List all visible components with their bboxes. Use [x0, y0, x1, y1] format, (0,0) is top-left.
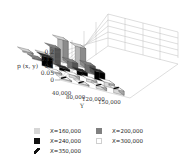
- z-axis-label: p (x, y): [17, 62, 38, 70]
- legend-label: X=240,000: [50, 138, 81, 144]
- z-tick: 0.2: [44, 48, 54, 55]
- legend-item: X=300,000: [96, 136, 143, 145]
- legend-item: X=240,000: [34, 136, 81, 145]
- legend-label: X=300,000: [112, 138, 143, 144]
- chart-3d-bar: 0 0.05 0.1 0.15 0.2 p (x, y) 40,000 80,0…: [0, 0, 189, 166]
- z-tick: 0.05: [41, 69, 55, 76]
- legend-swatch-white: [96, 138, 102, 144]
- z-axis: 0 0.05 0.1 0.15 0.2 p (x, y): [17, 48, 54, 83]
- plot-area: 0 0.05 0.1 0.15 0.2 p (x, y) 40,000 80,0…: [0, 0, 189, 125]
- z-tick: 0: [50, 76, 54, 83]
- legend-item: X=200,000: [96, 126, 143, 135]
- legend-label: X=200,000: [112, 128, 143, 134]
- legend-item: X=160,000: [34, 126, 81, 135]
- legend-item: X=350,000: [34, 146, 81, 155]
- legend-label: X=350,000: [50, 148, 81, 154]
- z-tick: 0.1: [44, 62, 54, 69]
- legend-label: X=160,000: [50, 128, 81, 134]
- legend-swatch-light: [34, 128, 40, 134]
- legend-swatch-hatch: [34, 148, 40, 154]
- y-tick: 150,000: [98, 99, 121, 105]
- z-tick: 0.15: [41, 55, 55, 62]
- legend-swatch-mid: [96, 128, 102, 134]
- y-axis-label: Y: [79, 102, 85, 109]
- legend-swatch-black: [34, 138, 40, 144]
